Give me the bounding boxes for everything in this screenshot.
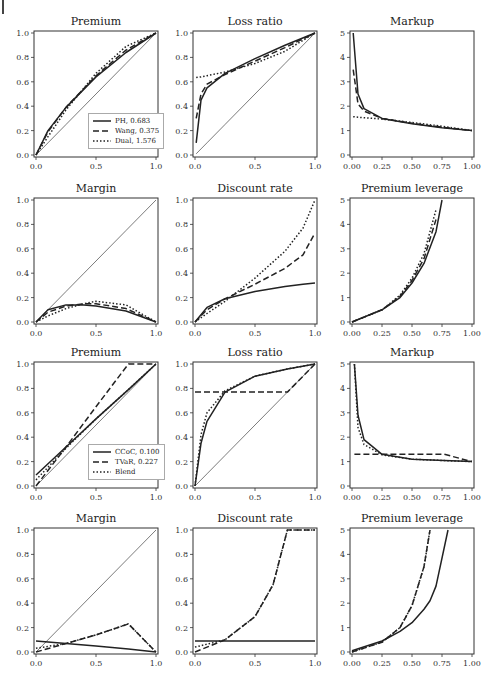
chart-plot: 0123450.000.250.500.751.00 bbox=[316, 346, 490, 504]
svg-text:0.6: 0.6 bbox=[175, 245, 188, 254]
svg-text:0.4: 0.4 bbox=[16, 599, 29, 608]
svg-text:3: 3 bbox=[340, 409, 345, 418]
svg-text:0.5: 0.5 bbox=[249, 659, 262, 668]
chart-plot: 0.00.20.40.60.81.00.00.51.0 bbox=[159, 512, 333, 670]
chart-title: Margin bbox=[34, 512, 158, 525]
chart-panel-r2c3: Premium leverage0123450.000.250.500.751.… bbox=[316, 182, 490, 340]
svg-text:0.4: 0.4 bbox=[175, 269, 188, 278]
series-line bbox=[195, 364, 315, 486]
svg-text:0.2: 0.2 bbox=[16, 294, 29, 303]
chart-title: Premium bbox=[34, 346, 158, 359]
chart-panel-r1c3: Markup0123450.000.250.500.751.00 bbox=[316, 15, 490, 173]
page-margin-mark bbox=[2, 0, 4, 14]
chart-panel-r4c1: Margin0.00.20.40.60.81.00.00.51.0 bbox=[0, 512, 174, 670]
legend-swatch-icon bbox=[93, 138, 111, 144]
svg-text:0.50: 0.50 bbox=[403, 162, 421, 171]
svg-text:0.00: 0.00 bbox=[343, 162, 361, 171]
svg-text:0.4: 0.4 bbox=[175, 102, 188, 111]
series-line bbox=[36, 624, 156, 652]
svg-text:0.75: 0.75 bbox=[433, 329, 451, 338]
chart-title: Markup bbox=[350, 15, 474, 28]
svg-text:1.0: 1.0 bbox=[175, 526, 188, 535]
chart-title: Loss ratio bbox=[193, 15, 317, 28]
chart-panel-r3c1: Premium0.00.20.40.60.81.00.00.51.0CCoC, … bbox=[0, 346, 174, 504]
legend-swatch-icon bbox=[93, 118, 111, 124]
svg-text:0.0: 0.0 bbox=[175, 648, 188, 657]
svg-text:1: 1 bbox=[340, 624, 345, 633]
chart-plot: 0.00.20.40.60.81.00.00.51.0 bbox=[0, 15, 174, 173]
svg-text:0.0: 0.0 bbox=[189, 659, 202, 668]
chart-title: Premium leverage bbox=[350, 182, 474, 195]
svg-text:1.0: 1.0 bbox=[16, 29, 29, 38]
series-line bbox=[354, 364, 472, 462]
svg-text:0.25: 0.25 bbox=[373, 659, 391, 668]
svg-text:0.0: 0.0 bbox=[16, 318, 29, 327]
svg-text:0.00: 0.00 bbox=[343, 329, 361, 338]
chart-panel-r3c3: Markup0123450.000.250.500.751.00 bbox=[316, 346, 490, 504]
chart-legend: CCoC, 0.100TVaR, 0.227Blend bbox=[88, 444, 165, 480]
legend-item: CCoC, 0.100 bbox=[93, 447, 160, 457]
svg-text:1: 1 bbox=[340, 127, 345, 136]
svg-text:0: 0 bbox=[340, 482, 345, 491]
svg-text:2: 2 bbox=[340, 599, 345, 608]
svg-text:0.6: 0.6 bbox=[175, 409, 188, 418]
series-line bbox=[196, 33, 315, 154]
svg-text:0.5: 0.5 bbox=[90, 659, 103, 668]
series-line bbox=[196, 33, 315, 118]
chart-title: Discount rate bbox=[193, 512, 317, 525]
svg-text:1.0: 1.0 bbox=[175, 360, 188, 369]
svg-text:0.2: 0.2 bbox=[16, 624, 29, 633]
svg-text:1.00: 1.00 bbox=[463, 493, 481, 502]
svg-text:0.0: 0.0 bbox=[189, 493, 202, 502]
svg-text:0.6: 0.6 bbox=[175, 575, 188, 584]
chart-title: Markup bbox=[350, 346, 474, 359]
series-line bbox=[352, 530, 430, 652]
svg-text:0.6: 0.6 bbox=[16, 245, 29, 254]
svg-text:0.4: 0.4 bbox=[16, 269, 29, 278]
svg-text:0.0: 0.0 bbox=[175, 318, 188, 327]
svg-text:0: 0 bbox=[340, 318, 345, 327]
svg-text:5: 5 bbox=[340, 29, 345, 38]
legend-item: Wang, 0.375 bbox=[93, 126, 159, 136]
svg-text:2: 2 bbox=[340, 433, 345, 442]
svg-text:2: 2 bbox=[340, 269, 345, 278]
series-line bbox=[195, 530, 315, 647]
svg-text:0.8: 0.8 bbox=[16, 384, 29, 393]
svg-text:0.2: 0.2 bbox=[175, 458, 188, 467]
svg-text:0.0: 0.0 bbox=[30, 162, 43, 171]
series-line bbox=[353, 70, 472, 131]
chart-plot: 0123450.000.250.500.751.00 bbox=[316, 512, 490, 670]
svg-text:4: 4 bbox=[340, 53, 345, 62]
chart-title: Discount rate bbox=[193, 182, 317, 195]
svg-text:0.0: 0.0 bbox=[175, 482, 188, 491]
svg-text:0.6: 0.6 bbox=[175, 78, 188, 87]
legend-swatch-icon bbox=[93, 459, 111, 465]
svg-text:0.8: 0.8 bbox=[175, 550, 188, 559]
svg-text:0.4: 0.4 bbox=[175, 433, 188, 442]
svg-text:0.4: 0.4 bbox=[16, 102, 29, 111]
svg-text:0.0: 0.0 bbox=[16, 648, 29, 657]
chart-plot: 0.00.20.40.60.81.00.00.51.0 bbox=[0, 182, 174, 340]
svg-text:0.5: 0.5 bbox=[249, 162, 262, 171]
series-line bbox=[196, 33, 315, 143]
svg-text:1: 1 bbox=[340, 458, 345, 467]
svg-text:1.0: 1.0 bbox=[16, 196, 29, 205]
svg-text:0.50: 0.50 bbox=[403, 329, 421, 338]
chart-plot: 0.00.20.40.60.81.00.00.51.0 bbox=[159, 346, 333, 504]
svg-text:0.0: 0.0 bbox=[175, 151, 188, 160]
series-line bbox=[352, 220, 436, 323]
svg-text:0: 0 bbox=[340, 151, 345, 160]
legend-label: Dual, 1.576 bbox=[115, 137, 156, 145]
svg-text:5: 5 bbox=[340, 526, 345, 535]
series-line bbox=[352, 200, 442, 322]
svg-text:0.6: 0.6 bbox=[16, 575, 29, 584]
chart-title: Premium bbox=[34, 15, 158, 28]
svg-text:4: 4 bbox=[340, 384, 345, 393]
svg-text:2: 2 bbox=[340, 102, 345, 111]
chart-panel-r4c3: Premium leverage0123450.000.250.500.751.… bbox=[316, 512, 490, 670]
svg-text:0.8: 0.8 bbox=[175, 220, 188, 229]
svg-text:0.2: 0.2 bbox=[175, 294, 188, 303]
svg-text:1.00: 1.00 bbox=[463, 329, 481, 338]
svg-text:0.25: 0.25 bbox=[373, 493, 391, 502]
svg-text:0.00: 0.00 bbox=[343, 659, 361, 668]
